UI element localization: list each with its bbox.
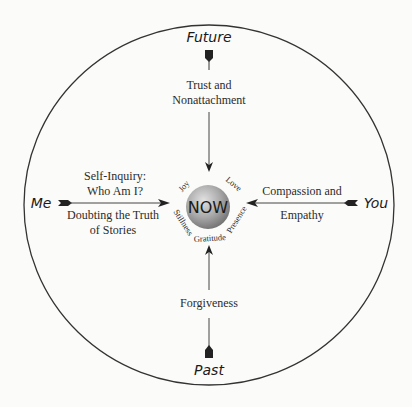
now-diagram: Future Trust and Nonattachment Me Self-I… — [0, 0, 412, 407]
empathy-line: Empathy — [280, 208, 323, 222]
self-inquiry-line1: Self-Inquiry: — [84, 169, 146, 183]
arrow-feather-left-icon — [58, 200, 72, 206]
arrow-feather-top-icon — [205, 50, 213, 70]
quality-love: Love — [224, 174, 244, 193]
doubting-line2: of Stories — [90, 223, 137, 237]
compassion-line1: Compassion and — [262, 184, 342, 198]
self-inquiry-line2: Who Am I? — [87, 184, 143, 198]
quality-gratitude: Gratitude — [193, 232, 226, 244]
you-label: You — [364, 195, 389, 211]
forgiveness-label: Forgiveness — [180, 296, 238, 310]
arrow-feather-bottom-icon — [205, 345, 213, 358]
trust-label-line1: Trust and — [186, 78, 231, 92]
now-label: NOW — [188, 198, 229, 217]
future-label: Future — [186, 29, 231, 45]
doubting-line1: Doubting the Truth — [67, 208, 159, 222]
past-label: Past — [194, 362, 224, 378]
trust-label-line2: Nonattachment — [172, 93, 246, 107]
arrow-feather-right-icon — [344, 200, 358, 206]
quality-joy: Joy — [176, 178, 192, 194]
me-label: Me — [31, 195, 52, 211]
